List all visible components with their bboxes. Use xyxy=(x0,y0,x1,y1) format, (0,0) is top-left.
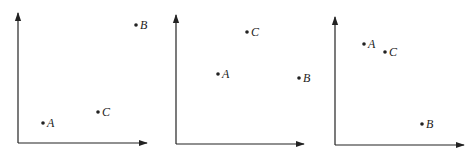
point-c-dot xyxy=(96,110,100,114)
point-b-label: B xyxy=(303,71,311,85)
point-b-dot xyxy=(297,76,301,80)
point-a-label: A xyxy=(46,116,55,130)
point-b-label: B xyxy=(140,18,148,32)
diagram-canvas: ABCABCABC xyxy=(0,0,475,158)
panel-2: ABC xyxy=(176,15,311,144)
point-a-label: A xyxy=(367,37,376,51)
point-c-label: C xyxy=(251,25,260,39)
point-c-dot xyxy=(245,30,249,34)
point-c-label: C xyxy=(389,45,398,59)
point-c-label: C xyxy=(102,105,111,119)
point-a-dot xyxy=(362,42,366,46)
panel-1: ABC xyxy=(18,13,148,143)
point-c-dot xyxy=(383,50,387,54)
point-b-dot xyxy=(134,23,138,27)
panel-3: ABC xyxy=(335,17,464,145)
point-a-label: A xyxy=(221,67,230,81)
point-b-label: B xyxy=(426,117,434,131)
point-a-dot xyxy=(216,72,220,76)
point-b-dot xyxy=(420,122,424,126)
point-a-dot xyxy=(41,121,45,125)
